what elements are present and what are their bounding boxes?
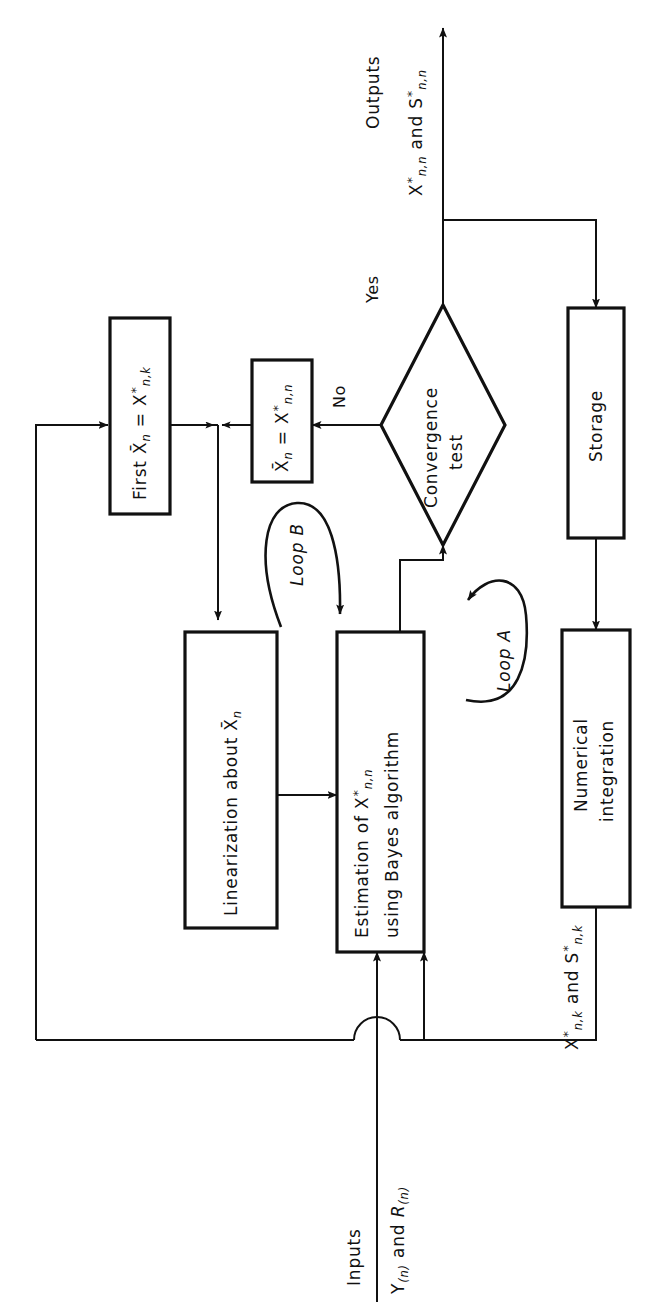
- io-label-inputs-vars: Y(n) and R(n): [388, 1186, 411, 1295]
- node-convergence-label-line1: Convergence: [421, 387, 441, 508]
- node-convergence-test[interactable]: Convergence test: [381, 305, 505, 545]
- node-update-estimate[interactable]: X̄n = X*n,n: [252, 360, 312, 482]
- edge-to-storage: [443, 220, 596, 308]
- node-first-estimate[interactable]: First X̄n = X*n,k: [110, 318, 170, 514]
- node-numerical-integration[interactable]: Numerical integration: [562, 630, 630, 907]
- node-linearization[interactable]: Linearization about X̄n: [185, 632, 277, 928]
- flowchart-canvas: First X̄n = X*n,k X̄n = X*n,n Convergenc…: [0, 0, 657, 1302]
- io-label-inputs-title: Inputs: [344, 1228, 364, 1286]
- edge-integration-feedback: [36, 425, 596, 1040]
- io-label-outputs-vars: X*n,n and S*n,n: [404, 69, 429, 196]
- node-estimation-label-line2: using Bayes algorithm: [382, 731, 402, 938]
- edge-label-loop-b: Loop B: [287, 523, 307, 586]
- io-label-outputs-title: Outputs: [363, 55, 383, 129]
- edge-label-loop-a: Loop A: [494, 629, 514, 692]
- node-storage[interactable]: Storage: [568, 308, 624, 538]
- flowchart-figure: First X̄n = X*n,k X̄n = X*n,n Convergenc…: [0, 0, 657, 1302]
- node-estimation[interactable]: Estimation of X*n,n using Bayes algorith…: [337, 632, 424, 952]
- edge-label-no: No: [330, 385, 349, 408]
- node-storage-label: Storage: [586, 390, 606, 462]
- edge-label-yes: Yes: [363, 275, 382, 304]
- edge-estimation-to-convergence: [400, 545, 443, 632]
- node-numerical-integration-label-line2: integration: [597, 720, 617, 822]
- node-numerical-integration-label-line1: Numerical: [571, 718, 591, 812]
- node-linearization-label: Linearization about X̄n: [220, 710, 244, 916]
- io-label-feedback-vars: X*n,k and S*n,k: [560, 924, 585, 1050]
- node-convergence-label-line2: test: [446, 434, 466, 470]
- edge-first-to-junction: [170, 425, 218, 620]
